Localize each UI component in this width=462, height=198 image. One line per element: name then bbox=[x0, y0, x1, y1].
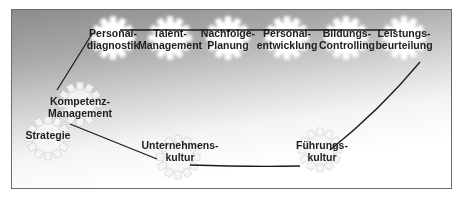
node-personalentwicklung: Personal- entwicklung bbox=[254, 27, 320, 51]
node-leistungsbeurteilung: Leistungs- beurteilung bbox=[371, 27, 437, 51]
node-kompetenzmanagement: Kompetenz- Management bbox=[46, 95, 114, 119]
node-fuehrungskultur: Führungs- kultur bbox=[290, 139, 354, 163]
node-personaldiagnostik: Personal- diagnostik bbox=[83, 27, 143, 51]
node-strategie: Strategie bbox=[18, 129, 78, 141]
node-nachfolgeplanung: Nachfolge- Planung bbox=[198, 27, 258, 51]
node-bildungscontrolling: Bildungs- Controlling bbox=[315, 27, 379, 51]
node-unternehmenskultur: Unternehmens- kultur bbox=[140, 139, 220, 163]
node-talent-management: Talent- Management bbox=[136, 27, 204, 51]
